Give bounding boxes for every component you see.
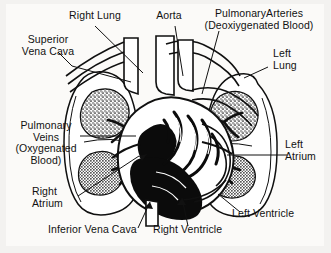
pulmonary-artery-shape	[178, 40, 193, 91]
heart-lungs-diagram: Right Lung Superior Vena Cava Aorta Pulm…	[0, 0, 331, 253]
label-inferior-vena-cava: Inferior Vena Cava	[48, 224, 148, 236]
label-aorta: Aorta	[146, 10, 192, 22]
label-left-atrium: Left Atrium	[285, 139, 329, 162]
label-right-ventricle: Right Ventricle	[153, 224, 245, 236]
label-superior-vena-cava: Superior Vena Cava	[12, 34, 84, 57]
label-pulmonary-veins: Pulmonary Veins (Oxygenated Blood)	[8, 120, 84, 166]
label-left-lung: Left Lung	[273, 48, 323, 71]
label-right-lung: Right Lung	[58, 10, 132, 22]
aorta-shape	[156, 36, 174, 95]
label-pulmonary-arteries: PulmonaryArteries (Deoxiygenated Blood)	[190, 8, 328, 31]
label-right-atrium: Right Atrium	[32, 186, 80, 209]
label-left-ventricle: Left Ventricle	[232, 208, 320, 220]
